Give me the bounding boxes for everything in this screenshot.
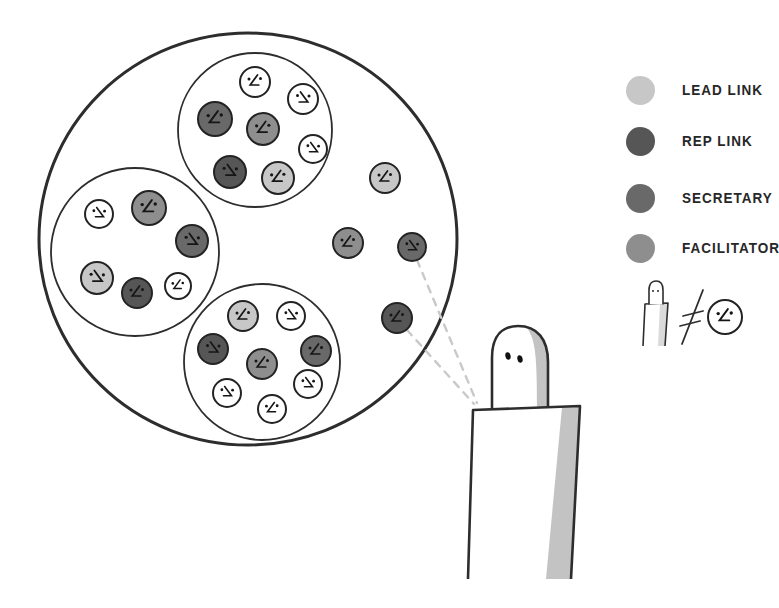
eye-left <box>102 273 105 276</box>
face-lead <box>262 162 294 194</box>
rep-link-swatch <box>626 127 655 156</box>
eye-left <box>130 289 133 292</box>
face-secretary <box>301 336 331 366</box>
face-member <box>294 370 322 398</box>
face-outline <box>262 162 294 194</box>
illustration-canvas: LEAD LINK REP LINK SECRETARY FACILITATOR <box>0 0 779 608</box>
eye-right <box>259 77 262 80</box>
face-outline <box>240 67 270 97</box>
face-outline <box>294 370 322 398</box>
legend-row-lead-link: LEAD LINK <box>626 76 763 105</box>
eye-left <box>255 124 258 127</box>
face-outline <box>333 228 363 258</box>
face-outline <box>176 225 208 257</box>
face-member <box>288 84 318 114</box>
face-member <box>213 379 241 407</box>
rep-link-label: REP LINK <box>682 133 753 149</box>
eye-left <box>341 239 344 242</box>
face-outline <box>288 84 318 114</box>
face-outline <box>198 102 232 136</box>
eye-right <box>92 209 95 212</box>
eye-right <box>266 359 269 362</box>
eye-left <box>317 145 320 148</box>
face-outline <box>708 300 742 334</box>
face-rep <box>198 334 228 364</box>
face-outline <box>122 278 152 308</box>
face-outline <box>165 273 191 299</box>
eye-right <box>282 173 285 176</box>
face-member <box>277 302 305 330</box>
face-secretary <box>198 102 232 136</box>
eye-left <box>717 312 720 315</box>
eye-right <box>206 344 209 347</box>
eye-left <box>248 78 251 81</box>
face-outline <box>398 233 426 261</box>
eye-right <box>267 124 270 127</box>
person-not-equal-role-icon <box>643 281 703 346</box>
face-outline <box>81 262 113 294</box>
lead-link-swatch <box>626 76 655 105</box>
face-outline <box>213 379 241 407</box>
facilitator-swatch <box>626 234 655 263</box>
eye-right <box>247 311 250 314</box>
eye-right <box>90 273 93 276</box>
eye-right <box>730 311 733 314</box>
face-lead <box>81 262 113 294</box>
face-outline <box>247 349 277 379</box>
eye-right <box>220 113 223 116</box>
eye-right <box>320 346 323 349</box>
face-outline <box>258 395 286 423</box>
eye-left <box>141 203 144 206</box>
face-facilitator <box>247 113 279 145</box>
not-equal-slash <box>682 290 703 344</box>
eye-right <box>284 311 287 314</box>
eye-left <box>103 210 106 213</box>
legend-row-secretary: SECRETARY <box>626 184 773 213</box>
eye-left <box>416 243 419 246</box>
note-person-eye <box>652 290 654 292</box>
face-member <box>165 273 191 299</box>
eye-right <box>352 238 355 241</box>
face-rep <box>382 303 412 333</box>
eye-right <box>296 94 299 97</box>
eye-left <box>231 389 234 392</box>
eye-left <box>172 282 175 285</box>
face-outline <box>299 135 327 163</box>
eye-right <box>223 167 226 170</box>
eye-left <box>270 173 273 176</box>
eye-right <box>185 236 188 239</box>
secretary-swatch <box>626 184 655 213</box>
face-outline <box>214 156 246 188</box>
face-outline <box>132 191 166 225</box>
eye-left <box>309 347 312 350</box>
eye-right <box>389 173 392 176</box>
person-role-dashed-link <box>407 330 474 404</box>
face-outline <box>228 301 258 331</box>
eye-right <box>401 313 404 316</box>
eye-left <box>295 312 298 315</box>
face-member <box>240 67 270 97</box>
face-lead <box>228 301 258 331</box>
face-secretary <box>176 225 208 257</box>
face-facilitator <box>247 349 277 379</box>
face-member <box>708 300 742 334</box>
eye-left <box>308 95 311 98</box>
face-outline <box>85 200 113 228</box>
eye-right <box>181 282 184 285</box>
face-outline <box>382 303 412 333</box>
eye-right <box>301 379 304 382</box>
eye-left <box>218 345 221 348</box>
face-outline <box>301 336 331 366</box>
facilitator-label: FACILITATOR <box>682 240 779 256</box>
eye-left <box>265 405 268 408</box>
lead-link-label: LEAD LINK <box>682 82 763 98</box>
face-member <box>258 395 286 423</box>
face-member <box>85 200 113 228</box>
legend-row-rep-link: REP LINK <box>626 127 753 156</box>
face-outline <box>198 334 228 364</box>
eye-left <box>235 167 238 170</box>
face-secretary <box>398 233 426 261</box>
face-facilitator <box>132 191 166 225</box>
eye-left <box>255 360 258 363</box>
face-outline <box>370 163 400 193</box>
